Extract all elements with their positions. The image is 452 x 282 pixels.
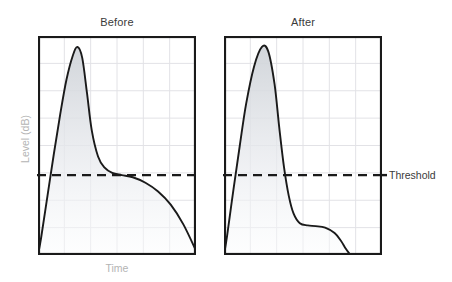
x-axis-label: Time xyxy=(38,262,196,274)
plot-svg-before xyxy=(38,36,196,255)
plot-svg-after xyxy=(224,36,382,255)
y-axis-label: Level (dB) xyxy=(19,100,31,178)
figure-root: Before After Level (dB) Time Threshold xyxy=(0,0,452,282)
envelope-fill-after xyxy=(224,46,350,255)
threshold-label: Threshold xyxy=(389,169,436,181)
plot-panel-after xyxy=(224,36,382,255)
plot-panel-before xyxy=(38,36,196,255)
panel-title-before: Before xyxy=(38,16,196,28)
panel-title-after: After xyxy=(224,16,382,28)
